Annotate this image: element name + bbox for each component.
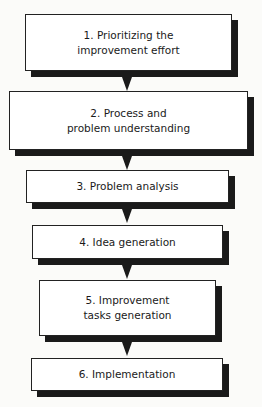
step-4-idea-generation: 4. Idea generation xyxy=(32,225,223,259)
step-2-label: 2. Process and problem understanding xyxy=(67,106,190,136)
step-1-label: 1. Prioritizing the improvement effort xyxy=(77,28,179,58)
step-6-label: 6. Implementation xyxy=(79,367,176,382)
arrow-down-icon xyxy=(122,77,132,91)
arrow-down-icon xyxy=(122,342,132,356)
step-5-label: 5. Improvement tasks generation xyxy=(83,293,171,323)
arrow-down-icon xyxy=(122,156,132,170)
step-1-prioritizing: 1. Prioritizing the improvement effort xyxy=(25,14,232,71)
step-3-problem-analysis: 3. Problem analysis xyxy=(26,170,229,203)
arrow-down-icon xyxy=(122,209,132,223)
arrow-down-icon xyxy=(122,265,132,279)
step-5-tasks-generation: 5. Improvement tasks generation xyxy=(39,280,216,336)
step-4-label: 4. Idea generation xyxy=(79,235,175,250)
step-6-implementation: 6. Implementation xyxy=(31,358,223,391)
step-2-process-understanding: 2. Process and problem understanding xyxy=(9,91,248,150)
step-3-label: 3. Problem analysis xyxy=(76,179,178,194)
